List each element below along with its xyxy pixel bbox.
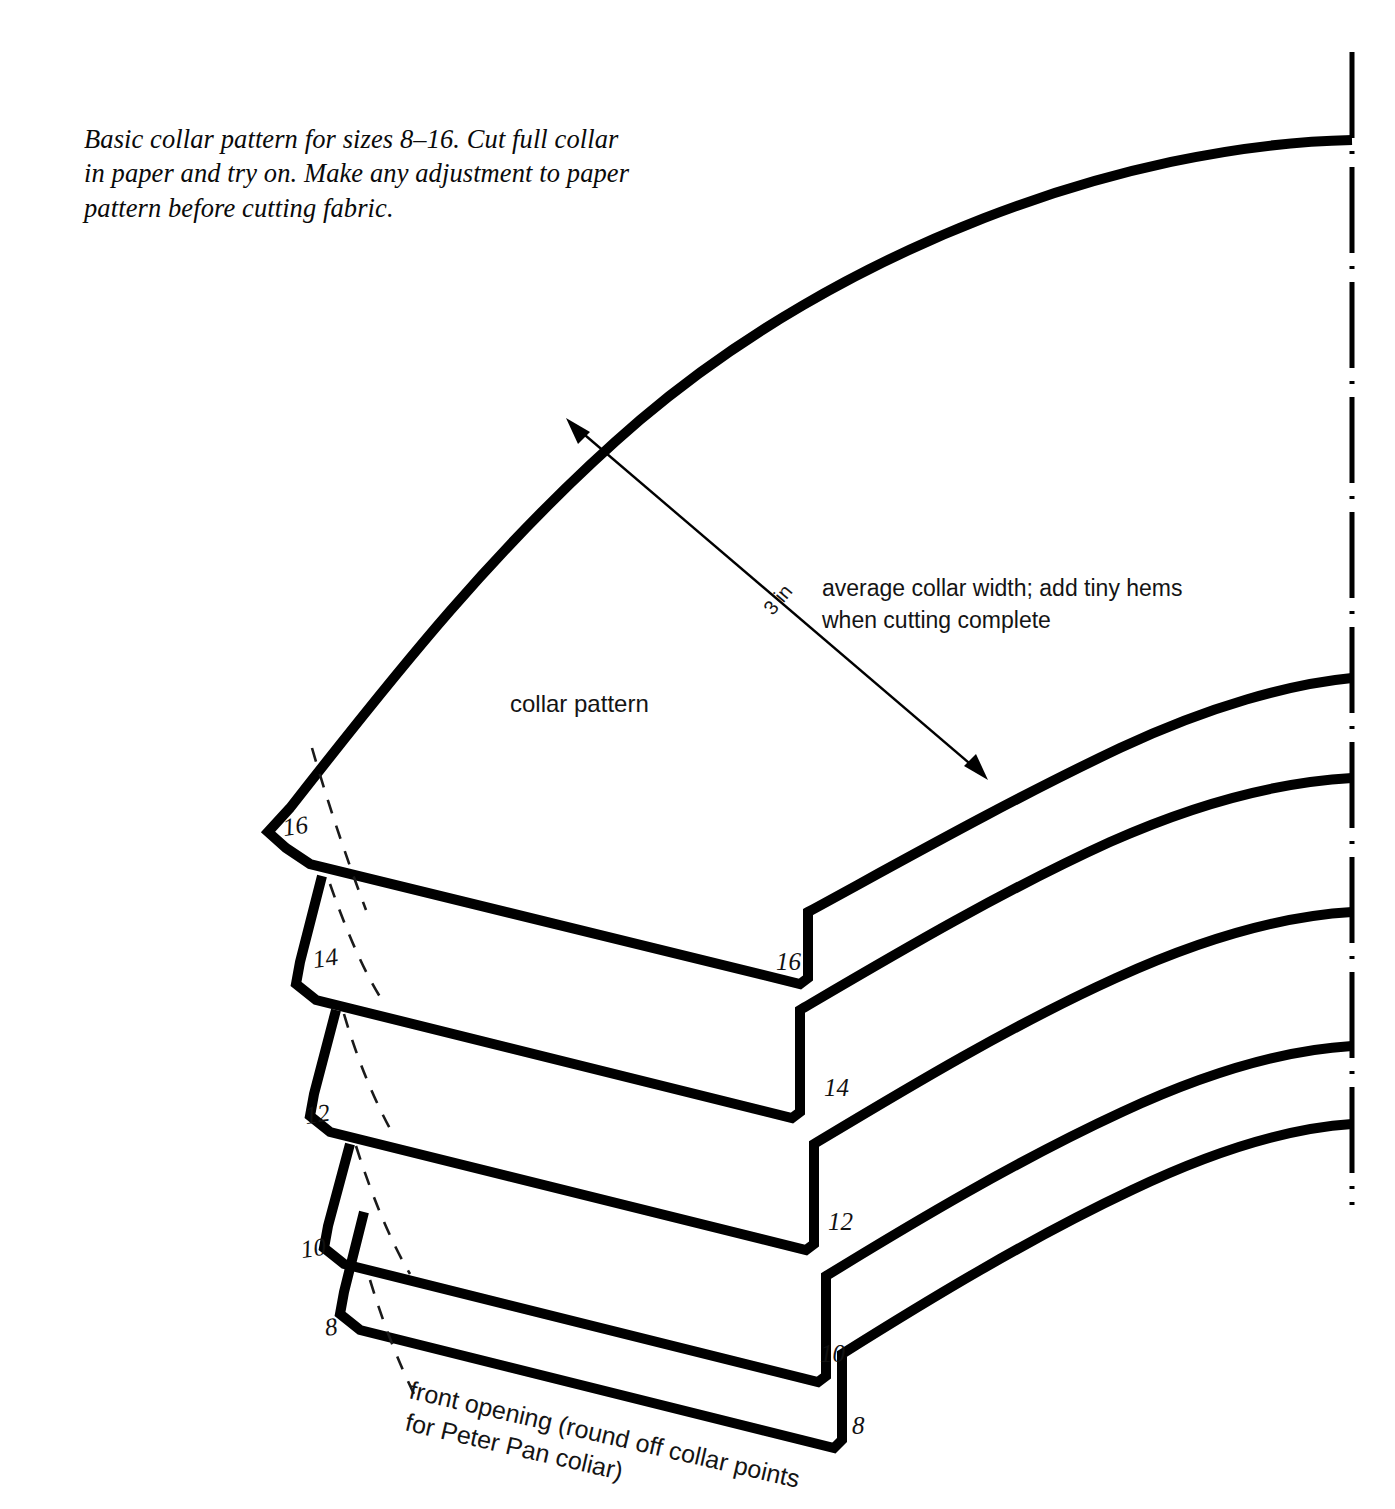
- size-label-front-10: 10: [299, 1233, 328, 1263]
- annotation-line-1: average collar width; add tiny hems: [822, 575, 1183, 601]
- size-label-back-16: 16: [776, 948, 802, 975]
- size-label-front-14: 14: [311, 943, 340, 973]
- size-16-outline: [268, 140, 1352, 984]
- size-label-back-14: 14: [824, 1074, 849, 1101]
- size-label-front-12: 12: [303, 1099, 332, 1129]
- size-label-front-16: 16: [281, 811, 310, 841]
- collar-pattern-label: collar pattern: [510, 690, 649, 717]
- roll-line-guide: [312, 748, 416, 1398]
- annotation-line-2: when cutting complete: [821, 607, 1051, 633]
- collar-pattern-drawing: 3 in average collar width; add tiny hems…: [0, 0, 1395, 1509]
- arrow-head-upper-icon: [566, 418, 590, 444]
- arrow-head-lower-icon: [964, 754, 988, 780]
- pattern-diagram-page: Basic collar pattern for sizes 8–16. Cut…: [0, 0, 1395, 1509]
- size-label-back-12: 12: [828, 1208, 853, 1235]
- size-label-back-10: 10: [820, 1340, 846, 1367]
- size-label-back-8: 8: [852, 1412, 865, 1439]
- dimension-label: 3 in: [759, 580, 797, 619]
